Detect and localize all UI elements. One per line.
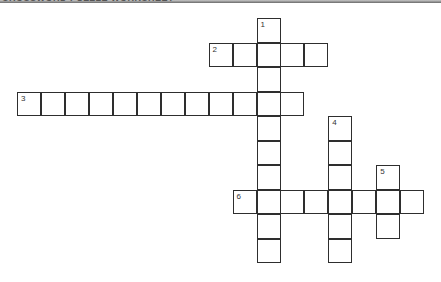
crossword-cell[interactable] xyxy=(137,92,161,117)
crossword-cell[interactable] xyxy=(89,92,113,117)
crossword-grid: 123456 xyxy=(0,0,441,282)
crossword-cell[interactable] xyxy=(257,214,281,239)
clue-number: 6 xyxy=(237,193,241,201)
clue-number: 5 xyxy=(380,168,384,176)
crossword-cell[interactable] xyxy=(233,43,257,68)
crossword-cell[interactable] xyxy=(41,92,65,117)
crossword-cell[interactable] xyxy=(328,165,352,190)
crossword-cell[interactable] xyxy=(209,92,233,117)
crossword-cell[interactable] xyxy=(161,92,185,117)
clue-number: 1 xyxy=(261,21,265,29)
crossword-cell[interactable] xyxy=(257,92,281,117)
crossword-cell[interactable] xyxy=(257,43,281,68)
crossword-cell[interactable] xyxy=(376,190,400,215)
crossword-cell[interactable] xyxy=(257,239,281,264)
crossword-cell[interactable]: 4 xyxy=(328,116,352,141)
crossword-cell[interactable] xyxy=(328,214,352,239)
crossword-cell[interactable]: 5 xyxy=(376,165,400,190)
crossword-cell[interactable]: 1 xyxy=(257,18,281,43)
crossword-cell[interactable] xyxy=(257,67,281,92)
crossword-cell[interactable] xyxy=(280,92,304,117)
clue-number: 4 xyxy=(332,119,336,127)
crossword-cell[interactable] xyxy=(257,141,281,166)
clue-number: 2 xyxy=(213,46,217,54)
crossword-cell[interactable]: 6 xyxy=(233,190,257,215)
clue-number: 3 xyxy=(21,95,25,103)
crossword-cell[interactable] xyxy=(257,165,281,190)
crossword-cell[interactable]: 3 xyxy=(17,92,41,117)
crossword-cell[interactable] xyxy=(257,190,281,215)
crossword-cell[interactable] xyxy=(400,190,424,215)
crossword-cell[interactable] xyxy=(304,43,328,68)
crossword-cell[interactable] xyxy=(328,190,352,215)
crossword-cell[interactable] xyxy=(280,43,304,68)
crossword-cell[interactable] xyxy=(113,92,137,117)
crossword-cell[interactable] xyxy=(65,92,89,117)
crossword-cell[interactable] xyxy=(352,190,376,215)
crossword-cell[interactable] xyxy=(304,190,328,215)
crossword-cell[interactable] xyxy=(233,92,257,117)
crossword-cell[interactable] xyxy=(257,116,281,141)
crossword-cell[interactable]: 2 xyxy=(209,43,233,68)
crossword-cell[interactable] xyxy=(328,141,352,166)
crossword-cell[interactable] xyxy=(185,92,209,117)
crossword-cell[interactable] xyxy=(280,190,304,215)
crossword-cell[interactable] xyxy=(376,214,400,239)
crossword-cell[interactable] xyxy=(328,239,352,264)
